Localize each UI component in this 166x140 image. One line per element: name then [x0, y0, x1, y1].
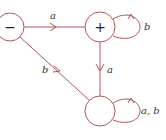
- edge-label: b: [144, 21, 150, 32]
- automaton-diagram: − + a b a b a, b: [0, 0, 166, 140]
- state-plus-label: +: [94, 19, 106, 35]
- state-minus-label: −: [4, 19, 16, 35]
- edge-plus-loop: [113, 15, 140, 38]
- arrow-head-icon: [53, 66, 60, 72]
- edge-label: b: [42, 64, 48, 75]
- edge-trap-loop: [113, 99, 140, 122]
- edge-label: a, b: [141, 105, 160, 116]
- state-trap: [85, 96, 115, 126]
- edge-label: a: [107, 64, 113, 75]
- edge-minus-trap: [20, 37, 89, 100]
- edge-label: a: [50, 10, 56, 21]
